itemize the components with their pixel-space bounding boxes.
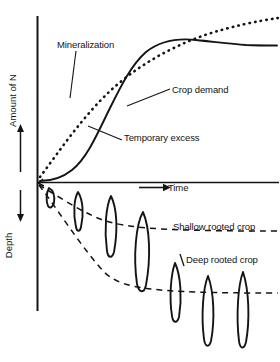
root-symbols-deep [171,263,249,348]
root-symbol-deep-2 [203,276,214,346]
leader-line-crop-demand [127,89,170,106]
label-y-axis-depth: Depth [3,224,14,268]
amount-of-n-arrow-icon [17,124,24,172]
root-symbol-shallow-3 [106,196,117,257]
leader-line-deep-rooted-crop [180,254,184,266]
leader-lines-upper [70,51,170,140]
curve-crop-demand [40,39,277,181]
root-symbol-shallow-2 [74,192,82,231]
figure-nitrogen-mineralization-vs-crop-demand: Mineralization Crop demand Temporary exc… [0,0,280,362]
label-y-axis-amount-of-n: Amount of N [7,67,18,135]
time-arrow-icon [139,184,171,191]
figure-canvas [0,0,280,362]
root-symbol-shallow-4 [135,212,149,291]
root-symbol-deep-1 [171,263,181,322]
label-deep-rooted-crop: Deep rooted crop [186,254,258,265]
label-mineralization: Mineralization [57,39,114,50]
root-symbols-shallow [47,188,150,291]
label-x-axis-time: Time [168,182,188,193]
depth-arrow-icon [17,190,24,222]
leader-line-temporary-excess [88,126,122,140]
label-shallow-rooted-crop: Shallow rooted crop [173,221,255,232]
label-temporary-excess: Temporary excess [124,132,199,143]
axis-group [37,16,279,311]
label-crop-demand: Crop demand [172,84,228,95]
leader-line-mineralization [70,51,76,98]
root-symbol-deep-3 [238,272,249,348]
